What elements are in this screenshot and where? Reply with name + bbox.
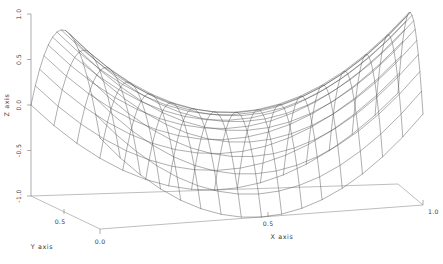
z-tick-label-2: 0.5: [15, 54, 22, 65]
mesh-line: [100, 114, 423, 217]
mesh-line: [352, 55, 383, 157]
y-axis-title: Y axis: [30, 243, 53, 251]
mesh-line: [83, 41, 417, 143]
mesh-line: [306, 85, 342, 188]
mesh-line: [91, 72, 420, 174]
x-tick-label-max: 1.0: [428, 208, 439, 215]
y-axis: [64, 209, 100, 234]
z-tick-label-4: -0.5: [15, 144, 22, 157]
mesh-line: [215, 112, 262, 217]
mesh-line: [237, 110, 281, 214]
x-axis-title: X axis: [271, 233, 294, 241]
y-tick-label-min: 0.0: [95, 238, 106, 245]
mesh-line: [31, 30, 100, 138]
mesh-line: [66, 13, 411, 113]
mesh-line: [87, 55, 418, 157]
x-axis: [268, 200, 423, 217]
z-axis-title: Z axis: [3, 94, 11, 117]
mesh-line: [100, 82, 161, 189]
mesh-line: [96, 91, 422, 194]
surface-plot-figure: 1.0 0.5 0.0 -0.5 -1.0 Z axis 0.5 1.0 X a…: [0, 0, 443, 264]
plot-canvas: 1.0 0.5 0.0 -0.5 -1.0 Z axis 0.5 1.0 X a…: [0, 0, 443, 264]
z-tick-label-5: -1.0: [15, 189, 22, 202]
mesh-line: [53, 21, 406, 120]
x-tick-label-mid: 0.5: [263, 220, 274, 227]
base-plane-outline: [31, 184, 423, 229]
mesh-line: [70, 15, 412, 115]
mesh-line: [74, 21, 414, 122]
surface-mesh: [31, 13, 423, 218]
z-tick-label-1: 1.0: [15, 9, 22, 20]
mesh-line: [54, 50, 120, 158]
z-tick-label-3: 0.0: [15, 100, 22, 111]
mesh-line: [57, 16, 408, 115]
y-tick-label-mid: 0.5: [55, 218, 66, 225]
z-axis: [27, 14, 31, 196]
